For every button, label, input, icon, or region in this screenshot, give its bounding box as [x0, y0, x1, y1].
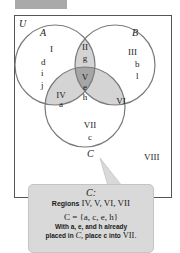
callout-set-expression: C = {a, c, e, h} [29, 212, 153, 222]
region-iii-label: III [128, 47, 137, 57]
note-place-into: place c into [85, 232, 121, 239]
region-vi-label: VI [116, 96, 126, 106]
element-g: g [83, 53, 88, 63]
region-i-label: I [50, 44, 53, 54]
element-j: j [40, 80, 44, 90]
note-set-c: C, [75, 230, 83, 240]
explanation-callout: C: Regions IV, V, VI, VII C = {a, c, e, … [28, 184, 154, 253]
set-b-label: B [132, 27, 138, 38]
note-region: VII. [123, 230, 137, 240]
element-e: e [83, 82, 87, 92]
region-ii-label: II [82, 42, 88, 52]
region-viii-label: VIII [144, 152, 160, 162]
element-d: d [41, 57, 46, 67]
callout-title: C: [29, 188, 153, 198]
element-c: c [88, 132, 92, 142]
callout-note-line2: placed in C, place c into VII. [29, 231, 153, 240]
set-c-label: C [87, 148, 94, 159]
element-a: a [59, 99, 63, 109]
callout-regions: Regions IV, V, VI, VII [29, 198, 153, 209]
regions-prefix: Regions [52, 200, 80, 207]
regions-list: IV, V, VI, VII [81, 198, 130, 208]
note-placed-in: placed in [45, 232, 73, 239]
region-v-label: V [82, 72, 89, 82]
set-a-label: A [39, 27, 47, 38]
universe-label: U [19, 18, 27, 29]
region-vii-label: VII [84, 120, 97, 130]
element-h: h [83, 92, 88, 102]
element-b: b [135, 59, 140, 69]
